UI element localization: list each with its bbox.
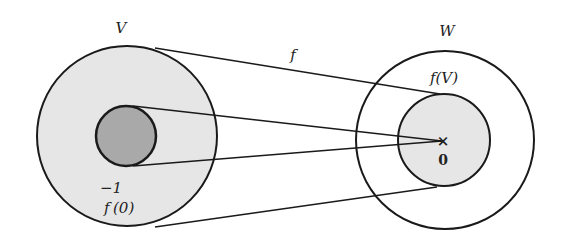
svg-text:−1: −1 (100, 179, 122, 197)
map-label-f: f (289, 46, 298, 64)
zero-label: 0 (438, 152, 448, 168)
preimage-circle (96, 106, 156, 166)
codomain-label-w: W (439, 22, 456, 40)
domain-label-v: V (116, 19, 129, 37)
svg-text:(0): (0) (113, 199, 134, 217)
mapping-diagram: × 0 V W f f(V) f −1 (0) (0, 0, 562, 249)
image-label-fv: f(V) (429, 69, 458, 87)
diagram-canvas: × 0 V W f f(V) f −1 (0) (0, 0, 562, 249)
zero-marker-icon: × (437, 132, 450, 150)
